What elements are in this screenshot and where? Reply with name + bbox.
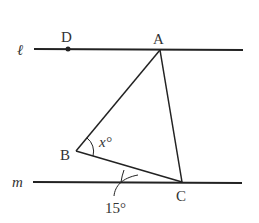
label-point-c: C <box>176 188 186 204</box>
label-angle-15: 15° <box>105 200 126 216</box>
label-line-l: ℓ <box>17 42 23 58</box>
label-angle-x: x° <box>98 134 112 150</box>
label-point-d: D <box>61 29 72 45</box>
label-line-m: m <box>12 174 23 190</box>
segment-ab <box>76 50 160 151</box>
label-point-b: B <box>60 147 70 163</box>
line-l <box>34 49 243 50</box>
line-m <box>33 182 242 183</box>
point-d <box>66 47 71 52</box>
angle-leader <box>114 175 138 196</box>
angle-arc-x <box>87 138 94 156</box>
segment-ac <box>160 50 182 182</box>
geometry-figure: ℓ m D A B C x° 15° <box>0 0 259 223</box>
label-point-a: A <box>153 31 164 47</box>
